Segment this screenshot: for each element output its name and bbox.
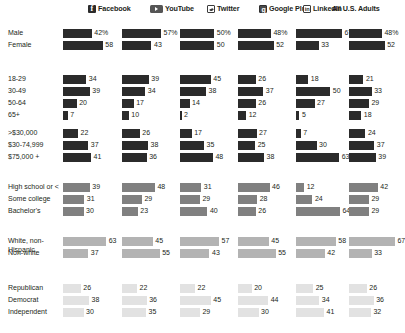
row-label: Independent — [8, 307, 62, 318]
bar — [63, 99, 77, 108]
bar — [349, 195, 369, 204]
chart-row: >$30,00022261727724 — [0, 128, 377, 139]
linkedin-icon — [303, 5, 311, 13]
row-label: 50-64 — [8, 98, 62, 109]
bar — [180, 75, 211, 84]
bar — [180, 111, 182, 120]
bar — [296, 308, 324, 317]
bar-value-label: 45 — [271, 236, 279, 247]
bar — [349, 296, 374, 305]
bar — [122, 207, 138, 216]
row-label: Democrat — [8, 295, 62, 306]
bar-value-label: 27 — [317, 98, 325, 109]
bar — [238, 296, 268, 305]
bar — [296, 141, 317, 150]
row-label: Female — [8, 40, 62, 51]
bar — [238, 207, 256, 216]
chart-row: High school or <394831461242 — [0, 182, 377, 193]
bar-value-label: 26 — [369, 283, 377, 294]
bar-value-label: 29 — [371, 98, 379, 109]
chart-row: Bachelor's302340266429 — [0, 206, 377, 217]
bar — [122, 183, 155, 192]
group-education: High school or <394831461242Some college… — [0, 182, 377, 218]
chart-row: 50-64201714262729 — [0, 98, 377, 109]
bar — [296, 249, 325, 258]
bar — [63, 153, 91, 162]
bar — [180, 195, 200, 204]
bar — [238, 99, 256, 108]
bar — [180, 237, 219, 246]
chart-row: Non-white375543554233 — [0, 248, 377, 259]
bar-value-label: 26 — [142, 128, 150, 139]
bar — [349, 183, 378, 192]
bar — [238, 195, 257, 204]
bar-value-label: 29 — [371, 194, 379, 205]
group-age: 18-2934394526182130-4939343837503350-642… — [0, 74, 377, 122]
bar-value-label: 67 — [397, 236, 405, 247]
bar — [349, 29, 382, 38]
bar — [238, 75, 256, 84]
bar — [122, 308, 146, 317]
bar — [122, 249, 160, 258]
bar — [238, 29, 271, 38]
bar — [180, 87, 206, 96]
bar-value-label: 45 — [213, 74, 221, 85]
google-plus-icon — [259, 5, 267, 13]
column-header-row: FacebookYouTubeTwitterGoogle PlusLinkedI… — [0, 0, 377, 20]
bar-value-label: 34 — [148, 86, 156, 97]
bar — [238, 141, 255, 150]
bar — [63, 284, 81, 293]
chart-row: Some college312929282429 — [0, 194, 377, 205]
bar — [349, 237, 395, 246]
bar-value-label: 40 — [210, 206, 218, 217]
bar — [180, 296, 211, 305]
chart-row: Male42%57%50%48%67%48% — [0, 28, 377, 39]
chart-row: Democrat383645443436 — [0, 295, 377, 306]
bar-value-label: 43 — [212, 248, 220, 259]
bar-value-label: 48 — [157, 182, 165, 193]
bar — [180, 141, 204, 150]
twitter-icon — [207, 5, 215, 13]
bar — [63, 75, 86, 84]
chart-row: Republican262222202526 — [0, 283, 377, 294]
column-header-alladults: All U.S. Adults — [332, 2, 380, 16]
bar-value-label: 2 — [184, 110, 188, 121]
facebook-icon — [88, 5, 96, 13]
row-label: >$30,000 — [8, 128, 62, 139]
bar — [63, 195, 84, 204]
bar-value-label: 29 — [202, 194, 210, 205]
bar — [63, 183, 90, 192]
bar — [180, 308, 200, 317]
bar — [180, 41, 214, 50]
bar-value-label: 48% — [273, 28, 287, 39]
bar-value-label: 30 — [261, 307, 269, 318]
bar-value-label: 18 — [364, 110, 372, 121]
bar — [122, 87, 145, 96]
group-gender: Male42%57%50%48%67%48%Female584350523352 — [0, 28, 377, 52]
bar — [63, 237, 106, 246]
bar-value-label: 41 — [327, 307, 335, 318]
bar-value-label: 36 — [376, 295, 384, 306]
bar-value-label: 30 — [319, 140, 327, 151]
bar-value-label: 50 — [333, 86, 341, 97]
bar-value-label: 20 — [79, 98, 87, 109]
bar-value-label: 45 — [155, 236, 163, 247]
bar — [63, 249, 88, 258]
bar — [238, 129, 257, 138]
group-politics: Republican262222202526Democrat3836454434… — [0, 283, 377, 319]
chart-row: Independent303529304132 — [0, 307, 377, 318]
bar-value-label: 52 — [276, 40, 284, 51]
bar-value-label: 37 — [91, 248, 99, 259]
row-label: 65+ — [8, 110, 62, 121]
chart-row: White, non-Hispanic634557455867 — [0, 236, 377, 247]
chart-row: $75,000 +413648386339 — [0, 152, 377, 163]
bar — [63, 207, 84, 216]
bar — [349, 87, 372, 96]
bar — [296, 29, 342, 38]
bar-value-label: 42% — [94, 28, 108, 39]
row-label: Republican — [8, 283, 62, 294]
row-label: Bachelor's — [8, 206, 62, 217]
bar — [296, 195, 312, 204]
bar-value-label: 58 — [105, 40, 113, 51]
